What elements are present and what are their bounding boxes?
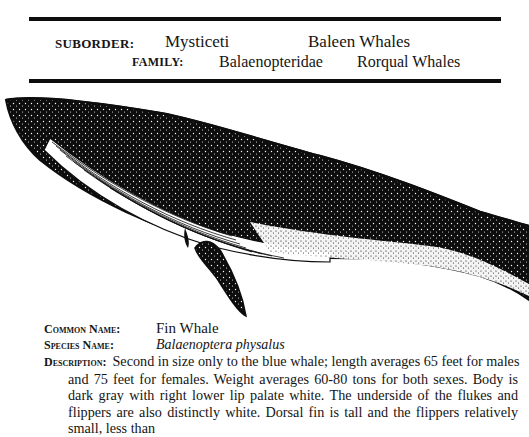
- bottom-rule: [29, 79, 501, 83]
- description-label: Description:: [44, 355, 106, 369]
- species-name-label: Species Name:: [44, 338, 156, 353]
- suborder-common-name: Baleen Whales: [308, 32, 410, 52]
- description-text: and 75 feet for females. Weight averages…: [44, 371, 518, 437]
- suborder-label: SUBORDER:: [55, 36, 134, 52]
- description-first-line: Description:Second in size only to the b…: [44, 353, 518, 371]
- species-name-value: Balaenoptera physalus: [156, 337, 285, 352]
- family-value: Balaenopteridae: [219, 53, 323, 71]
- common-name-value: Fin Whale: [156, 320, 219, 336]
- top-rule: [29, 17, 501, 21]
- family-common-name: Rorqual Whales: [357, 53, 460, 71]
- family-label: FAMILY:: [132, 55, 184, 70]
- description-first-line-text: Second in size only to the blue whale; l…: [112, 353, 519, 369]
- description-block: Description:Second in size only to the b…: [44, 353, 518, 437]
- common-name-label: Common Name:: [44, 322, 156, 337]
- species-name-row: Species Name:Balaenoptera physalus: [44, 337, 285, 353]
- common-name-row: Common Name:Fin Whale: [44, 320, 219, 337]
- fin-whale-illustration: [0, 88, 529, 328]
- suborder-value: Mysticeti: [165, 32, 229, 52]
